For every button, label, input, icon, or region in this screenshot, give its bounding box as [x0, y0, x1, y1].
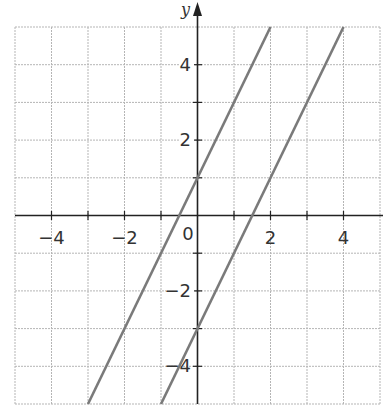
- y-axis-label: y: [180, 0, 191, 19]
- x-tick-label-neg2: −2: [111, 227, 138, 248]
- origin-label: 0: [182, 223, 193, 244]
- x-tick-label-2: 2: [265, 227, 276, 248]
- y-tick-label-neg4: −4: [164, 355, 191, 376]
- y-tick-label-4: 4: [180, 54, 191, 75]
- coordinate-plane: y −4 −2 0 2 4 4 2 −2 −4: [0, 0, 383, 415]
- y-tick-label-neg2: −2: [164, 280, 191, 301]
- x-tick-label-neg4: −4: [38, 227, 65, 248]
- y-axis-arrow-icon: [193, 2, 202, 16]
- x-tick-label-4: 4: [338, 227, 349, 248]
- y-tick-label-2: 2: [180, 129, 191, 150]
